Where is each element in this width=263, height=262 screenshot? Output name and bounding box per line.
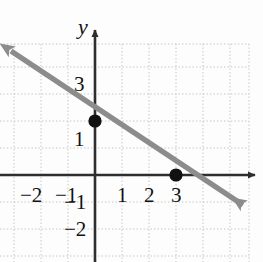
point-y-intercept	[88, 114, 101, 127]
plotted-line	[11, 51, 243, 205]
x-tick-label-1: 1	[117, 185, 128, 206]
x-tick-label-2: 2	[144, 185, 155, 206]
y-tick-label-3: 3	[74, 74, 85, 95]
plot-canvas	[0, 0, 263, 262]
y-tick-label-neg2: −2	[64, 219, 86, 240]
grid-horizontal-lines	[0, 44, 249, 256]
y-tick-label-neg1: −1	[64, 192, 86, 213]
y-axis-name-label: y	[78, 16, 88, 38]
x-tick-label-3: 3	[171, 185, 182, 206]
coordinate-plane-figure: y −2 −1 1 2 3 3 1 −1 −2	[0, 0, 263, 262]
y-tick-label-1: 1	[74, 129, 85, 150]
x-tick-label-neg2: −2	[20, 185, 42, 206]
point-x-intercept	[169, 168, 182, 181]
